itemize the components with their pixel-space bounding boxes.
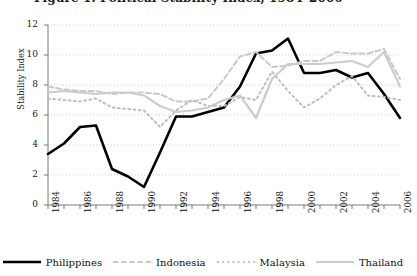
legend-label: Thailand (359, 257, 403, 268)
x-tick-label: 1986 (84, 191, 93, 213)
legend-label: Malaysia (260, 257, 305, 268)
x-tick-label: 2006 (404, 191, 413, 213)
chart-legend: PhilippinesIndonesiaMalaysiaThailand (0, 253, 417, 271)
y-tick-label: 10 (16, 50, 38, 59)
legend-item-thailand[interactable]: Thailand (316, 257, 403, 268)
legend-swatch-icon (217, 257, 255, 267)
legend-swatch-icon (316, 257, 354, 267)
x-tick-label: 1996 (244, 191, 253, 213)
legend-swatch-icon (113, 257, 151, 267)
series-lines (48, 39, 400, 188)
legend-label: Philippines (46, 257, 102, 268)
x-tick-label: 1992 (180, 191, 189, 213)
y-tick-label: 8 (16, 80, 38, 89)
y-tick-label: 12 (16, 20, 38, 29)
x-tick-label: 1988 (116, 191, 125, 213)
x-tick-label: 2000 (308, 191, 317, 213)
legend-item-indonesia[interactable]: Indonesia (113, 257, 205, 268)
y-tick-label: 2 (16, 170, 38, 179)
legend-item-malaysia[interactable]: Malaysia (217, 257, 305, 268)
legend-label: Indonesia (156, 257, 205, 268)
figure-container: Figure 1. Political Stability Index, 198… (0, 0, 417, 276)
x-tick-label: 2004 (372, 191, 381, 213)
x-tick-label: 1984 (52, 191, 61, 213)
y-tick-label: 0 (16, 200, 38, 209)
x-tick-label: 1990 (148, 191, 157, 213)
x-tick-label: 1994 (212, 191, 221, 213)
chart-canvas (0, 0, 417, 276)
x-tick-label: 2002 (340, 191, 349, 213)
legend-item-philippines[interactable]: Philippines (3, 257, 102, 268)
x-tick-label: 1998 (276, 191, 285, 213)
legend-swatch-icon (3, 257, 41, 267)
y-tick-label: 4 (16, 140, 38, 149)
y-tick-label: 6 (16, 110, 38, 119)
